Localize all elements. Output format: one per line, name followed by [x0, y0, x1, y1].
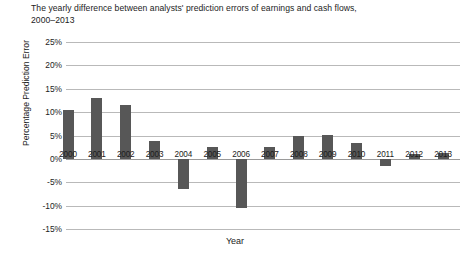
gridline: [66, 89, 460, 90]
gridline: [66, 65, 460, 66]
x-tick-label: 2001: [82, 150, 112, 159]
x-tick-label: 2006: [226, 150, 256, 159]
x-tick-label: 2009: [313, 150, 343, 159]
x-tick-label: 2004: [168, 150, 198, 159]
x-tick-label: 2011: [370, 150, 400, 159]
bar: [178, 159, 189, 189]
gridline: [66, 206, 460, 207]
y-tick-label: 5%: [26, 131, 62, 141]
y-axis-title: Percentage Prediction Error: [21, 3, 31, 183]
x-tick-label: 2008: [284, 150, 314, 159]
zero-gridline: [66, 159, 460, 160]
y-tick-label: 20%: [26, 60, 62, 70]
y-tick-label: -5%: [26, 177, 62, 187]
y-tick-label: 25%: [26, 37, 62, 47]
x-tick-label: 2013: [428, 150, 458, 159]
plot-area: 25%20%15%10%5%0%-5%-10%-15% 200020012002…: [0, 0, 470, 260]
x-tick-label: 2005: [197, 150, 227, 159]
gridline: [66, 42, 460, 43]
x-tick-label: 2012: [399, 150, 429, 159]
x-tick-label: 2010: [341, 150, 371, 159]
x-tick-label: 2007: [255, 150, 285, 159]
gridline: [66, 182, 460, 183]
y-tick-label: -10%: [26, 201, 62, 211]
chart-figure: The yearly difference between analysts' …: [0, 0, 470, 260]
y-tick-label: -15%: [26, 224, 62, 234]
x-tick-label: 2002: [111, 150, 141, 159]
y-tick-label: 10%: [26, 107, 62, 117]
x-axis-title: Year: [0, 236, 470, 246]
x-tick-label: 2000: [53, 150, 83, 159]
y-tick-label: 15%: [26, 84, 62, 94]
bar: [380, 159, 391, 166]
bar: [236, 159, 247, 208]
gridline: [66, 229, 460, 230]
x-tick-label: 2003: [140, 150, 170, 159]
